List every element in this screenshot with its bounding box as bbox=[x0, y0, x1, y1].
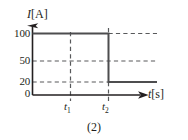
figure-caption: (2) bbox=[0, 120, 188, 135]
y-tick-0: 0 bbox=[0, 88, 30, 99]
y-tick-50: 50 bbox=[0, 55, 30, 66]
y-axis-label: I[A] bbox=[27, 8, 48, 20]
y-tick-100: 100 bbox=[0, 28, 30, 39]
current-step-curve bbox=[33, 34, 158, 83]
plot-canvas bbox=[0, 0, 188, 140]
x-axis-unit: [s] bbox=[151, 87, 164, 101]
x-tick-t1: t1 bbox=[64, 101, 71, 115]
x-tick-t2: t2 bbox=[102, 101, 109, 115]
figure-current-vs-time: I[A] t[s] 100 50 20 0 t1 t2 (2) bbox=[0, 0, 188, 140]
x-axis-label: t[s] bbox=[148, 88, 164, 100]
y-axis-unit: [A] bbox=[31, 7, 48, 21]
x-tick-t1-subscript: 1 bbox=[67, 106, 71, 115]
x-tick-t2-subscript: 2 bbox=[105, 106, 109, 115]
y-tick-20: 20 bbox=[0, 76, 30, 87]
